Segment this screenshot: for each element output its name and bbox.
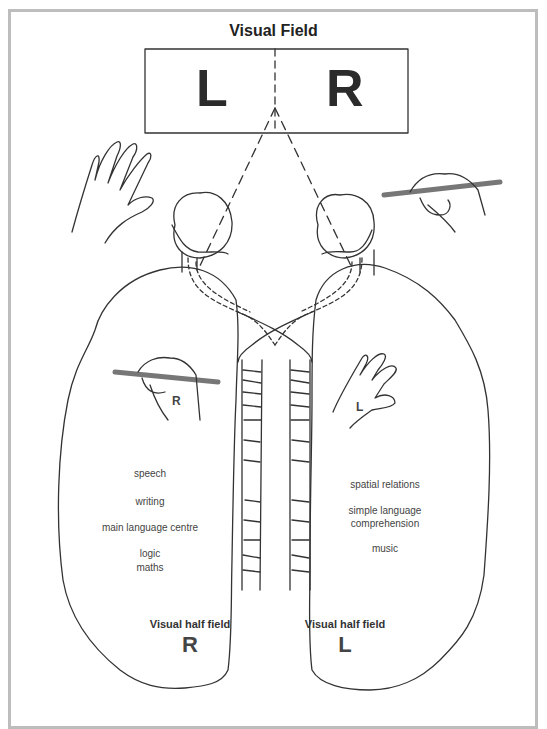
function-spatial-relations: spatial relations	[325, 479, 445, 491]
diagram-title: Visual Field	[0, 22, 547, 40]
left-half-field-letter: R	[140, 632, 240, 658]
left-hemisphere-hand-label: R	[172, 394, 181, 408]
function-main-language-centre: main language centre	[90, 522, 210, 534]
visual-field-box	[145, 49, 408, 133]
function-speech: speech	[90, 468, 210, 480]
function-simple-language: simple language	[325, 505, 445, 517]
open-hand-icon	[333, 354, 396, 428]
open-hand-icon	[72, 142, 153, 243]
sight-lines	[198, 108, 353, 270]
right-eye	[317, 194, 375, 258]
left-eye	[174, 192, 232, 258]
optic-tracts	[188, 258, 362, 345]
chiasm	[238, 312, 312, 362]
right-hemisphere-hand-label: L	[356, 400, 363, 414]
function-maths: maths	[90, 562, 210, 574]
visual-field-right-letter: R	[326, 58, 364, 118]
pencil-icon	[115, 372, 218, 382]
right-half-field-letter: L	[295, 632, 395, 658]
visual-field-left-letter: L	[196, 58, 228, 118]
function-music: music	[325, 543, 445, 555]
function-comprehension: comprehension	[325, 518, 445, 530]
corpus-callosum	[242, 360, 310, 590]
right-half-field-label: Visual half field	[295, 618, 395, 630]
function-logic: logic	[90, 548, 210, 560]
pencil-icon	[384, 182, 500, 195]
left-half-field-label: Visual half field	[140, 618, 240, 630]
function-writing: writing	[90, 496, 210, 508]
